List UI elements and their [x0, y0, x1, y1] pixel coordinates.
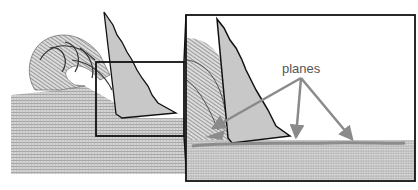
figure: planes: [0, 0, 418, 190]
cutting-tool: [104, 12, 176, 118]
workpiece-mesh: [11, 86, 185, 174]
planes-label: planes: [282, 61, 321, 76]
